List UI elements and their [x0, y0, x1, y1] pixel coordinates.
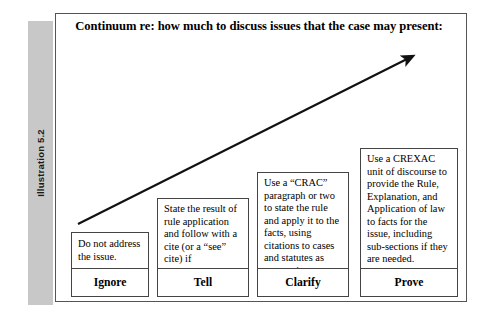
- continuum-box-tell-label: Tell: [158, 268, 248, 296]
- diagram-title: Continuum re: how much to discuss issues…: [56, 19, 462, 34]
- continuum-box-ignore-text: Do not address the issue.: [72, 233, 148, 268]
- continuum-box-ignore-label: Ignore: [72, 268, 148, 296]
- continuum-box-prove-text: Use a CREXAC unit of discourse to provid…: [361, 149, 457, 268]
- continuum-box-clarify-label: Clarify: [258, 268, 348, 296]
- continuum-box-tell: State the result of rule application and…: [157, 198, 249, 297]
- continuum-box-tell-text: State the result of rule application and…: [158, 199, 248, 268]
- continuum-box-prove: Use a CREXAC unit of discourse to provid…: [360, 148, 458, 297]
- continuum-box-clarify: Use a “CRAC” paragraph or two to state t…: [257, 172, 349, 297]
- continuum-box-prove-label: Prove: [361, 268, 457, 296]
- continuum-box-ignore: Do not address the issue. Ignore: [71, 232, 149, 297]
- continuum-box-clarify-text: Use a “CRAC” paragraph or two to state t…: [258, 173, 348, 268]
- illustration-number-label: Illustration 5.2: [28, 21, 53, 305]
